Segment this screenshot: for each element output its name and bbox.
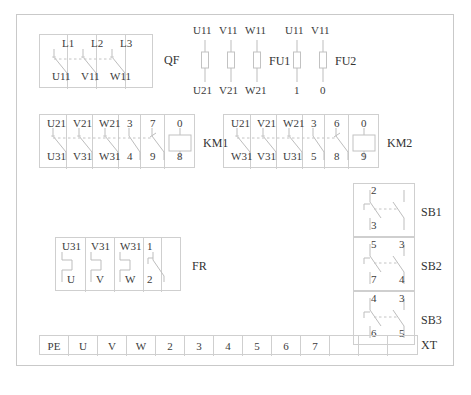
km2-bottom-label-9: 9 bbox=[361, 151, 367, 162]
sb2-bottom-label-7: 7 bbox=[371, 274, 377, 285]
km1-bottom-label-u31: U31 bbox=[47, 151, 66, 162]
device-name-fu2: FU2 bbox=[335, 55, 356, 67]
xt-terminal-cell[interactable]: 4 bbox=[214, 336, 243, 356]
sb1-top-label-2: 2 bbox=[371, 185, 377, 196]
km1-bottom-label-8: 8 bbox=[177, 151, 183, 162]
fu1-bottom-label-u21: U21 bbox=[193, 85, 212, 96]
qf-bottom-label-v11: V11 bbox=[81, 71, 100, 82]
km2-bottom-label-w31: W31 bbox=[231, 151, 252, 162]
qf-bottom-label-w11: W11 bbox=[110, 71, 131, 82]
km2-top-label-0: 0 bbox=[361, 118, 367, 129]
km2-top-label-v21: V21 bbox=[257, 118, 276, 129]
sb2-top-label-5: 5 bbox=[371, 239, 377, 250]
fr-top-label-w31: W31 bbox=[120, 241, 141, 252]
fu2-fuses bbox=[291, 34, 341, 88]
fu1-top-label-v11: V11 bbox=[219, 25, 238, 36]
qf-bottom-label-u11: U11 bbox=[52, 71, 71, 82]
fr-bottom-label-u: U bbox=[67, 274, 75, 285]
device-fu2 bbox=[291, 34, 333, 88]
sb3-top-label-3: 3 bbox=[399, 293, 405, 304]
fu1-bottom-label-w21: W21 bbox=[245, 85, 266, 96]
fu2-top-label-v11: V11 bbox=[311, 25, 330, 36]
km1-top-label-0: 0 bbox=[177, 118, 183, 129]
fu1-top-label-u11: U11 bbox=[193, 25, 212, 36]
km1-bottom-label-4: 4 bbox=[127, 151, 133, 162]
xt-terminal-cell[interactable]: 5 bbox=[243, 336, 272, 356]
device-name-sb3: SB3 bbox=[421, 314, 442, 326]
qf-top-label-l2: L2 bbox=[91, 38, 103, 49]
fr-top-label-u31: U31 bbox=[62, 241, 81, 252]
km1-bottom-label-w31: W31 bbox=[99, 151, 120, 162]
fr-bottom-label-v: V bbox=[96, 274, 104, 285]
qf-top-label-l3: L3 bbox=[120, 38, 132, 49]
xt-terminal-cell[interactable] bbox=[388, 336, 417, 356]
device-name-sb1: SB1 bbox=[421, 206, 442, 218]
km1-bottom-label-9: 9 bbox=[150, 151, 156, 162]
fr-top-label-v31: V31 bbox=[91, 241, 110, 252]
km1-top-label-w21: W21 bbox=[99, 118, 120, 129]
xt-terminal-cell[interactable]: PE bbox=[40, 336, 69, 356]
device-name-fr: FR bbox=[192, 260, 207, 272]
xt-terminal-cell[interactable]: 2 bbox=[156, 336, 185, 356]
km1-top-label-u21: U21 bbox=[47, 118, 66, 129]
sb2-top-label-3: 3 bbox=[399, 239, 405, 250]
schematic-panel: L1 L2 L3 U11 V11 W11 QF U11 V11 W11 U21 … bbox=[16, 14, 454, 366]
km1-top-label-3: 3 bbox=[127, 118, 133, 129]
km2-top-label-3: 3 bbox=[311, 118, 317, 129]
km1-top-label-v21: V21 bbox=[73, 118, 92, 129]
qf-top-label-l1: L1 bbox=[62, 38, 74, 49]
sb3-top-label-4: 4 bbox=[371, 293, 377, 304]
km2-bottom-label-5: 5 bbox=[311, 151, 317, 162]
fu1-top-label-w11: W11 bbox=[245, 25, 266, 36]
km2-top-label-w21: W21 bbox=[283, 118, 304, 129]
device-name-xt: XT bbox=[421, 339, 437, 351]
km2-top-label-6: 6 bbox=[334, 118, 340, 129]
fr-bottom-label-w: W bbox=[125, 274, 135, 285]
km2-top-label-u21: U21 bbox=[231, 118, 250, 129]
fu1-fuses bbox=[199, 34, 279, 88]
km2-bottom-label-8: 8 bbox=[334, 151, 340, 162]
device-name-km2: KM2 bbox=[387, 137, 412, 149]
sb1-contacts bbox=[354, 184, 416, 238]
device-sb1 bbox=[353, 183, 415, 237]
km1-top-label-7: 7 bbox=[150, 118, 156, 129]
device-name-qf: QF bbox=[164, 54, 179, 66]
fr-bottom-label-2: 2 bbox=[147, 274, 153, 285]
sb2-bottom-label-4: 4 bbox=[399, 274, 405, 285]
km2-bottom-label-u31: U31 bbox=[283, 151, 302, 162]
xt-terminal-cell[interactable]: 6 bbox=[272, 336, 301, 356]
xt-terminal-cell[interactable]: U bbox=[69, 336, 98, 356]
device-xt: PEUVW234567 bbox=[39, 335, 418, 355]
km1-bottom-label-v31: V31 bbox=[73, 151, 92, 162]
sb1-bottom-label-3: 3 bbox=[371, 220, 377, 231]
fu2-top-label-u11: U11 bbox=[285, 25, 304, 36]
km2-bottom-label-v31: V31 bbox=[257, 151, 276, 162]
fr-top-label-1: 1 bbox=[147, 241, 153, 252]
sb2-contacts bbox=[354, 238, 416, 292]
xt-terminal-cell[interactable]: W bbox=[127, 336, 156, 356]
device-fu1 bbox=[199, 34, 267, 88]
xt-terminal-cell[interactable] bbox=[330, 336, 359, 356]
device-sb2 bbox=[353, 237, 415, 291]
xt-terminal-cell[interactable]: 3 bbox=[185, 336, 214, 356]
fu2-bottom-label-1: 1 bbox=[294, 85, 300, 96]
xt-terminal-cell[interactable]: 7 bbox=[301, 336, 330, 356]
xt-terminal-cell[interactable] bbox=[359, 336, 388, 356]
fu2-bottom-label-0: 0 bbox=[320, 85, 326, 96]
fu1-bottom-label-v21: V21 bbox=[219, 85, 238, 96]
device-name-fu1: FU1 bbox=[269, 55, 290, 67]
device-name-sb2: SB2 bbox=[421, 260, 442, 272]
xt-terminal-cell[interactable]: V bbox=[98, 336, 127, 356]
